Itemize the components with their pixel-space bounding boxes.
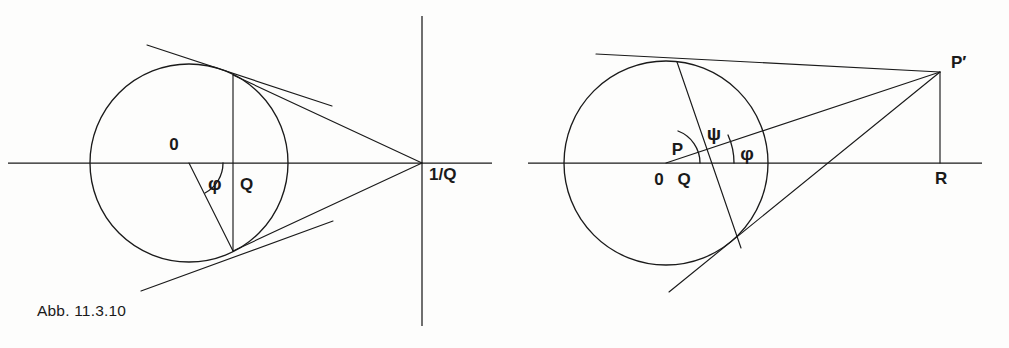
right-label-foot: R — [935, 169, 947, 188]
right-label-q: Q — [677, 170, 690, 189]
diagram-svg: 0 φ Q 1/Q 0 — [0, 0, 1009, 348]
right-label-p: P — [672, 140, 683, 159]
figure-container: 0 φ Q 1/Q 0 — [0, 0, 1009, 348]
right-label-apex: P′ — [951, 53, 966, 72]
left-diagram-group: 0 φ Q 1/Q — [8, 16, 492, 326]
left-label-apex: 1/Q — [429, 165, 456, 184]
right-label-center: 0 — [654, 170, 663, 189]
right-tangent-lower — [669, 72, 940, 292]
left-tangent-upper — [147, 45, 332, 106]
left-ray-upper-to-apex — [233, 75, 422, 163]
left-label-phi: φ — [208, 173, 222, 194]
left-label-center: 0 — [169, 135, 178, 154]
right-ray-center-to-apex — [666, 72, 940, 163]
left-tangent-lower — [141, 221, 333, 291]
right-angle-phi-arc — [728, 135, 734, 163]
right-label-phi: φ — [740, 143, 754, 164]
left-label-q: Q — [240, 175, 253, 194]
figure-caption: Abb. 11.3.10 — [37, 302, 126, 319]
right-diagram-group: 0 Q P ψ φ P′ R — [528, 53, 982, 292]
left-ray-lower-to-apex — [233, 163, 422, 251]
right-label-psi: ψ — [707, 123, 721, 144]
right-chord-through-circle — [677, 62, 741, 248]
